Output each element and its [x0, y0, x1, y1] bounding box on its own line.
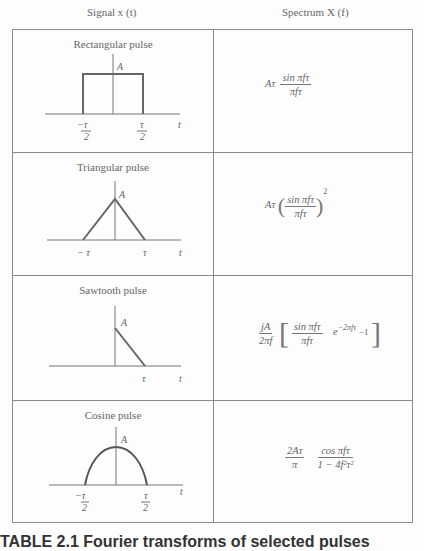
formula-numerator: cos πfτ: [318, 445, 354, 458]
formula-coef-numerator: jA: [259, 321, 272, 334]
formula-coef-denominator: π: [285, 458, 304, 470]
svg-text:τ: τ: [140, 119, 144, 130]
svg-text:− τ: − τ: [77, 247, 90, 258]
svg-text:τ: τ: [144, 490, 148, 501]
formula-coef-numerator: 2Aτ: [285, 445, 304, 458]
row-triangular: Triangular pulse A − τ τ t Aτ (sin πfτπf…: [13, 153, 413, 275]
svg-text:t: t: [178, 119, 181, 130]
rectangular-spectrum-formula: Aτ sin πfτπfτ: [265, 72, 311, 97]
table-caption: TABLE 2.1 Fourier transforms of selected…: [0, 533, 370, 551]
row-sawtooth: Sawtooth pulse A τ t jA2πf [ sin πfτπfτ …: [13, 276, 413, 400]
svg-text:A: A: [116, 61, 124, 72]
cosine-spectrum-formula: 2Aτπ cos πfτ1 − 4f²τ²: [285, 445, 353, 470]
svg-text:t: t: [180, 486, 183, 497]
formula-numerator: sin πfτ: [285, 194, 316, 207]
svg-text:−τ: −τ: [77, 119, 88, 130]
formula-denominator: πfτ: [285, 207, 316, 219]
svg-text:2: 2: [143, 502, 148, 513]
triangular-spectrum-formula: Aτ (sin πfτπfτ)2: [265, 193, 327, 219]
formula-numerator: sin πfτ: [292, 321, 323, 334]
svg-text:τ: τ: [143, 247, 147, 258]
svg-text:A: A: [118, 189, 126, 200]
svg-text:t: t: [179, 373, 182, 384]
svg-text:−τ: −τ: [75, 490, 86, 501]
svg-text:A: A: [120, 434, 128, 445]
formula-prefix: Aτ: [265, 78, 275, 89]
sawtooth-spectrum-formula: jA2πf [ sin πfτπfτ e−2πfτ −1 ]: [259, 316, 381, 350]
svg-text:2: 2: [82, 502, 87, 513]
triangular-pulse-plot: A − τ τ t: [13, 153, 213, 275]
formula-exp-base: e: [333, 326, 338, 337]
formula-exp-power: −2πfτ: [338, 323, 357, 332]
signal-column-header: Signal x (t): [87, 6, 137, 18]
formula-prefix: Aτ: [265, 199, 275, 210]
svg-text:τ: τ: [142, 373, 146, 384]
row-rectangular: Rectangular pulse A −τ 2 τ 2 t Aτ sin πf…: [13, 30, 413, 152]
formula-denominator: πfτ: [292, 334, 323, 346]
formula-tail: −1: [359, 327, 369, 337]
cosine-pulse-plot: A −τ 2 τ 2 t: [13, 401, 213, 523]
svg-text:t: t: [179, 247, 182, 258]
svg-text:2: 2: [84, 131, 89, 142]
sawtooth-pulse-plot: A τ t: [13, 276, 213, 400]
transform-table: Rectangular pulse A −τ 2 τ 2 t Aτ sin πf…: [12, 29, 413, 523]
formula-numerator: sin πfτ: [280, 72, 311, 85]
formula-coef-denominator: 2πf: [259, 334, 272, 346]
rectangular-pulse-plot: A −τ 2 τ 2 t: [13, 30, 213, 152]
formula-denominator: 1 − 4f²τ²: [318, 458, 354, 470]
spectrum-column-header: Spectrum X (f): [282, 6, 349, 18]
formula-exponent: 2: [323, 187, 327, 196]
svg-text:A: A: [120, 317, 128, 328]
svg-text:2: 2: [140, 131, 145, 142]
row-cosine: Cosine pulse A −τ 2 τ 2 t 2Aτπ cos πfτ1 …: [13, 401, 413, 523]
formula-denominator: πfτ: [280, 85, 311, 97]
